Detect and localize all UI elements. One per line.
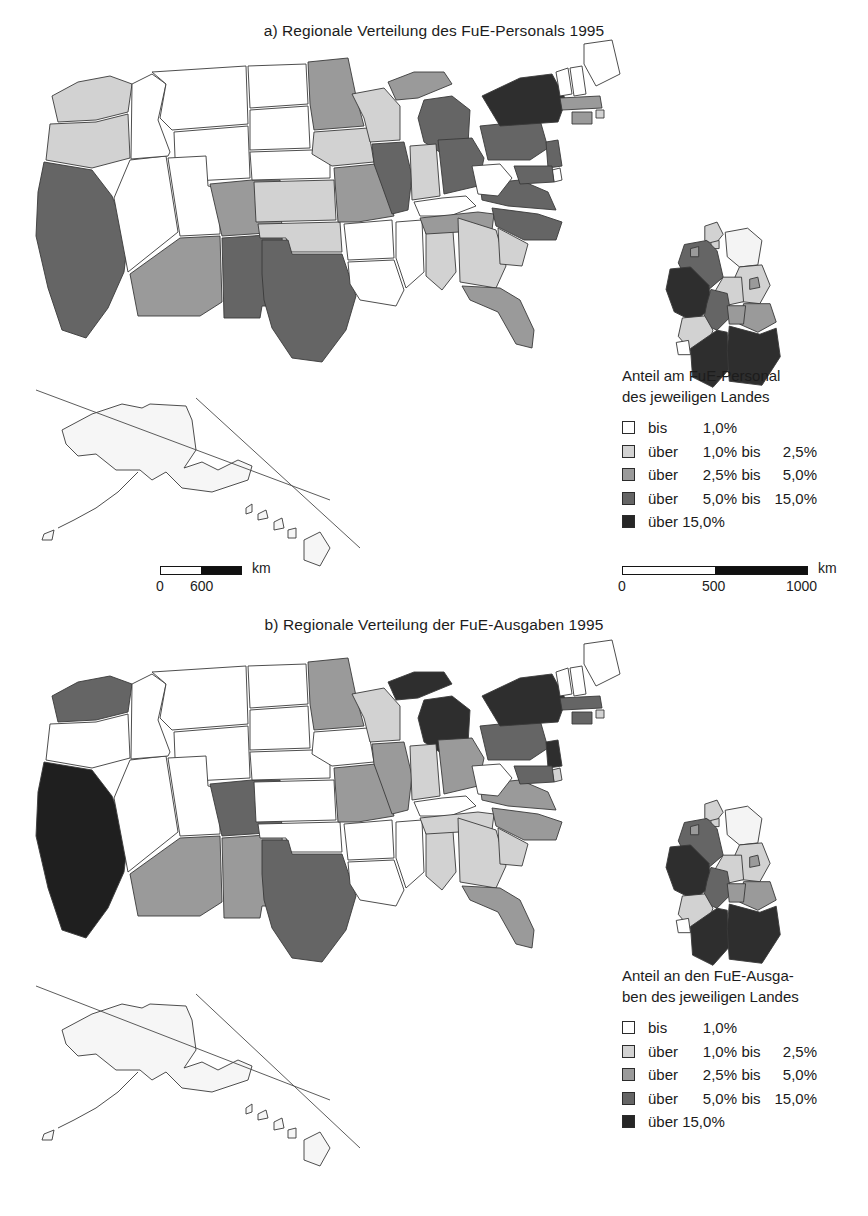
legend-b-label-4: über 15,0%	[648, 1113, 725, 1130]
legend-b-value2-2: 5,0%	[765, 1066, 817, 1083]
scalebar-usa-a: km 0 600	[160, 566, 242, 575]
legend-a-row-2: über 2,5% bis 5,0%	[622, 463, 862, 487]
scalebar-segment-black	[201, 567, 241, 574]
legend-b-value-1: 1,0%	[692, 1043, 737, 1060]
legend-b-value-0: 1,0%	[692, 1019, 737, 1036]
legend-a-label-4: über 15,0%	[648, 513, 725, 530]
legend-a-row-1: über 1,0% bis 2,5%	[622, 440, 862, 464]
legend-a-value-2: 2,5%	[692, 466, 737, 483]
legend-swatch-class-1	[622, 445, 635, 458]
legend-b-operator-1: über	[648, 1043, 692, 1060]
legend-a-value-0: 1,0%	[692, 419, 737, 436]
scalebar-segment-white	[161, 567, 201, 574]
legend-b-row-3: über 5,0% bis 15,0%	[622, 1087, 862, 1111]
legend-swatch-class-4	[622, 1115, 635, 1128]
legend-b-value2-3: 15,0%	[765, 1090, 817, 1107]
legend-swatch-class-3	[622, 492, 635, 505]
scalebar-germany-a-tick-0: 0	[618, 578, 626, 594]
legend-a-value2-3: 15,0%	[765, 490, 817, 507]
scalebar-usa-a-tick-0: 0	[156, 578, 164, 594]
legend-a-joiner-2: bis	[737, 466, 765, 483]
legend-swatch-class-0	[622, 1021, 635, 1034]
legend-b-row-4: über 15,0%	[622, 1110, 862, 1134]
legend-b-joiner-2: bis	[737, 1066, 765, 1083]
legend-b-row-1: über 1,0% bis 2,5%	[622, 1040, 862, 1064]
legend-a-operator-3: über	[648, 490, 692, 507]
scalebar-usa-a-tick-1: 600	[190, 578, 213, 594]
legend-b-joiner-1: bis	[737, 1043, 765, 1060]
legend-b-row-2: über 2,5% bis 5,0%	[622, 1063, 862, 1087]
legend-a-operator-2: über	[648, 466, 692, 483]
legend-a-row-0: bis 1,0%	[622, 416, 862, 440]
legend-b-value-2: 2,5%	[692, 1066, 737, 1083]
legend-swatch-class-4	[622, 515, 635, 528]
legend-a-row-4: über 15,0%	[622, 510, 862, 534]
scalebar-usa-a-unit: km	[252, 560, 271, 576]
legend-swatch-class-3	[622, 1092, 635, 1105]
legend-a-value-1: 1,0%	[692, 443, 737, 460]
legend-a-joiner-3: bis	[737, 490, 765, 507]
legend-swatch-class-2	[622, 468, 635, 481]
scalebar-segment-black	[715, 567, 807, 574]
scalebar-germany-a: km 0 500 1000	[622, 566, 808, 575]
legend-swatch-class-2	[622, 1068, 635, 1081]
legend-a-title: Anteil am FuE-Personal des jeweiligen La…	[622, 366, 862, 407]
legend-b-value-3: 5,0%	[692, 1090, 737, 1107]
scalebar-germany-a-unit: km	[818, 560, 837, 576]
scalebar-usa-a-bar	[160, 566, 242, 575]
scalebar-segment-white	[623, 567, 715, 574]
legend-swatch-class-1	[622, 1045, 635, 1058]
legend-b-operator-3: über	[648, 1090, 692, 1107]
scalebar-germany-a-tick-2: 1000	[786, 578, 817, 594]
legend-b-joiner-3: bis	[737, 1090, 765, 1107]
legend-b-title: Anteil an den FuE-Ausga- ben des jeweili…	[622, 966, 862, 1007]
legend-b-operator-0: bis	[648, 1019, 692, 1036]
legend-b-row-0: bis 1,0%	[622, 1016, 862, 1040]
panel-b-fue-ausgaben: b) Regionale Verteilung der FuE-Ausgaben…	[0, 608, 868, 1216]
legend-a: Anteil am FuE-Personal des jeweiligen La…	[622, 366, 862, 534]
legend-b-operator-2: über	[648, 1066, 692, 1083]
legend-a-value-3: 5,0%	[692, 490, 737, 507]
panel-a-fue-personal: a) Regionale Verteilung des FuE-Personal…	[0, 0, 868, 608]
scalebar-germany-a-bar	[622, 566, 808, 575]
legend-a-operator-0: bis	[648, 419, 692, 436]
legend-b: Anteil an den FuE-Ausga- ben des jeweili…	[622, 966, 862, 1134]
legend-swatch-class-0	[622, 421, 635, 434]
legend-b-value2-1: 2,5%	[765, 1043, 817, 1060]
scalebar-germany-a-tick-1: 500	[702, 578, 725, 594]
legend-a-value2-2: 5,0%	[765, 466, 817, 483]
legend-a-joiner-1: bis	[737, 443, 765, 460]
legend-a-operator-1: über	[648, 443, 692, 460]
legend-a-row-3: über 5,0% bis 15,0%	[622, 487, 862, 511]
legend-a-value2-1: 2,5%	[765, 443, 817, 460]
